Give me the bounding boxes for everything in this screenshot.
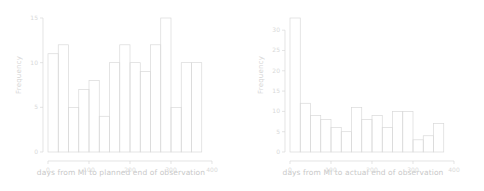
histogram-bar <box>110 63 120 152</box>
histogram-bar <box>372 115 382 152</box>
histogram-bar <box>79 89 89 152</box>
x-tick-label: 400 <box>444 166 464 173</box>
x-tick-label: 100 <box>79 166 99 173</box>
y-tick-label: 10 <box>266 107 280 114</box>
histogram-bar <box>89 81 99 152</box>
y-tick-label: 30 <box>266 26 280 33</box>
y-tick-label: 10 <box>24 59 38 66</box>
y-tick-label: 15 <box>24 14 38 21</box>
histogram-bars-actual-end <box>290 18 444 152</box>
x-tick-label: 0 <box>280 166 300 173</box>
x-tick-label: 300 <box>403 166 423 173</box>
y-tick-label: 5 <box>24 103 38 110</box>
x-tick-label: 400 <box>202 166 222 173</box>
panel-planned-end: Frequency days from MI to planned end of… <box>0 0 242 191</box>
histogram-bar <box>352 107 362 152</box>
plot-area-planned-end <box>0 0 242 191</box>
histogram-bar <box>58 45 68 152</box>
axes-actual-end <box>282 30 454 164</box>
x-tick-label: 100 <box>321 166 341 173</box>
histogram-bar <box>413 140 423 152</box>
y-tick-label: 25 <box>266 46 280 53</box>
histogram-bar <box>321 120 331 152</box>
x-tick-label: 200 <box>362 166 382 173</box>
y-axis-label-planned: Frequency <box>10 0 28 150</box>
histogram-bar <box>151 45 161 152</box>
histogram-bar <box>341 132 351 152</box>
histogram-bar <box>161 18 171 152</box>
y-tick-label: 15 <box>266 87 280 94</box>
histogram-figure: Frequency days from MI to planned end of… <box>0 0 484 191</box>
histogram-bar <box>311 115 321 152</box>
histogram-bar <box>192 63 202 152</box>
histogram-bar <box>140 72 150 152</box>
x-tick-label: 300 <box>161 166 181 173</box>
y-tick-label: 5 <box>266 128 280 135</box>
histogram-bar <box>181 63 191 152</box>
histogram-bar <box>403 111 413 152</box>
histogram-bar <box>48 54 58 152</box>
histogram-bar <box>69 107 79 152</box>
histogram-bar <box>382 128 392 152</box>
histogram-bar <box>331 128 341 152</box>
y-tick-label: 0 <box>24 148 38 155</box>
y-tick-label: 0 <box>266 148 280 155</box>
histogram-bars-planned-end <box>48 18 202 152</box>
histogram-bar <box>362 120 372 152</box>
histogram-bar <box>171 107 181 152</box>
histogram-bar <box>393 111 403 152</box>
axes-planned-end <box>40 18 212 164</box>
y-tick-label: 20 <box>266 67 280 74</box>
panel-actual-end: Frequency days from MI to actual end of … <box>242 0 484 191</box>
histogram-bar <box>423 136 433 152</box>
histogram-bar <box>130 63 140 152</box>
x-tick-label: 200 <box>120 166 140 173</box>
histogram-bar <box>434 124 444 152</box>
histogram-bar <box>300 103 310 152</box>
histogram-bar <box>120 45 130 152</box>
histogram-bar <box>290 18 300 152</box>
x-tick-label: 0 <box>38 166 58 173</box>
histogram-bar <box>99 116 109 152</box>
